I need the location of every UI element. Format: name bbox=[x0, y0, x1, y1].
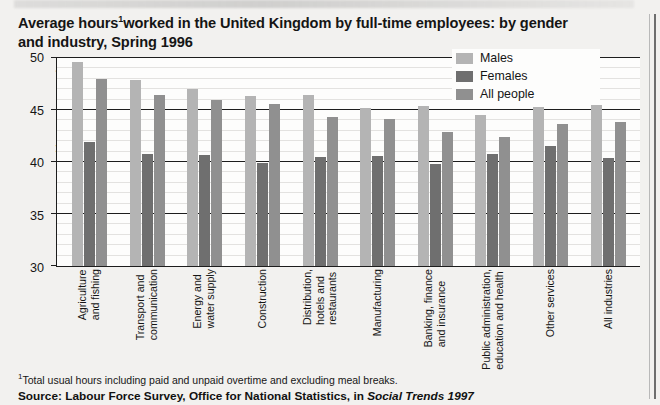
bar-females[interactable] bbox=[603, 158, 614, 266]
x-category-label-line: restaurants bbox=[326, 269, 339, 325]
bar-all-people[interactable] bbox=[269, 104, 280, 266]
y-axis-tick-labels: 3035404550 bbox=[8, 57, 50, 267]
x-category-label: All industries bbox=[602, 269, 615, 329]
bar-males[interactable] bbox=[418, 106, 429, 266]
bar-group bbox=[119, 58, 177, 266]
legend-item[interactable]: Females bbox=[456, 69, 596, 83]
title-line1b: worked in the United Kingdom by full-tim… bbox=[123, 15, 568, 31]
x-category-label: Energy andwater supply bbox=[192, 269, 217, 328]
x-category-label: Manufacturing bbox=[371, 269, 384, 336]
y-tick-label: 30 bbox=[8, 261, 44, 275]
legend-item[interactable]: Males bbox=[456, 51, 596, 65]
legend-swatch bbox=[456, 89, 473, 100]
x-label-cell: Energy andwater supply bbox=[175, 269, 233, 373]
title-line1a: Average hours bbox=[18, 15, 118, 31]
bar-males[interactable] bbox=[72, 62, 83, 266]
x-label-cell: Other services bbox=[522, 269, 580, 373]
bar-males[interactable] bbox=[245, 96, 256, 266]
bar-males[interactable] bbox=[187, 89, 198, 266]
x-category-label-line: Agriculture bbox=[76, 269, 89, 320]
x-label-cell: Transport andcommunication bbox=[118, 269, 176, 373]
x-label-cell: All industries bbox=[579, 269, 637, 373]
footnote: 1Total usual hours including paid and un… bbox=[18, 372, 628, 387]
bar-group bbox=[349, 58, 407, 266]
legend-label: Females bbox=[480, 69, 528, 83]
x-category-label-line: water supply bbox=[204, 269, 217, 328]
y-tick-mark bbox=[51, 213, 57, 214]
bar-males[interactable] bbox=[303, 95, 314, 266]
bar-all-people[interactable] bbox=[557, 124, 568, 266]
y-tick-label: 40 bbox=[8, 156, 44, 170]
bar-females[interactable] bbox=[372, 156, 383, 266]
x-category-label-line: Construction bbox=[256, 269, 269, 328]
x-category-label: Banking, financeand insurance bbox=[422, 269, 447, 347]
x-category-label-line: Other services bbox=[544, 269, 557, 337]
page-title: Average hours1worked in the United Kingd… bbox=[18, 14, 618, 51]
bar-females[interactable] bbox=[142, 154, 153, 266]
y-tick-mark bbox=[51, 161, 57, 162]
bar-males[interactable] bbox=[360, 108, 371, 266]
x-category-label-line: hotels and bbox=[313, 269, 326, 325]
bar-group bbox=[61, 58, 119, 266]
y-tick-mark bbox=[51, 57, 57, 58]
x-category-label: Agricultureand fishing bbox=[76, 269, 101, 320]
bar-group bbox=[291, 58, 349, 266]
bar-females[interactable] bbox=[487, 154, 498, 266]
x-category-label-line: All industries bbox=[602, 269, 615, 329]
legend-swatch bbox=[456, 53, 473, 64]
chart-legend: MalesFemalesAll people bbox=[452, 49, 600, 103]
bar-females[interactable] bbox=[315, 157, 326, 266]
x-axis-category-labels: Agricultureand fishingTransport andcommu… bbox=[56, 269, 640, 373]
y-tick-mark bbox=[51, 265, 57, 266]
x-category-label-line: education and health bbox=[493, 269, 506, 370]
bar-all-people[interactable] bbox=[442, 132, 453, 266]
x-category-label-line: Public administration, bbox=[480, 269, 493, 370]
x-label-cell: Manufacturing bbox=[349, 269, 407, 373]
x-category-label: Other services bbox=[544, 269, 557, 337]
bar-all-people[interactable] bbox=[211, 100, 222, 266]
chart-page: Average hours1worked in the United Kingd… bbox=[0, 0, 660, 405]
bar-females[interactable] bbox=[545, 146, 556, 266]
x-category-label-line: Distribution, bbox=[301, 269, 314, 325]
x-category-label-line: and insurance bbox=[435, 269, 448, 347]
y-tick-label: 50 bbox=[8, 51, 44, 65]
x-category-label: Construction bbox=[256, 269, 269, 328]
bar-all-people[interactable] bbox=[327, 117, 338, 266]
bar-all-people[interactable] bbox=[615, 122, 626, 266]
bar-all-people[interactable] bbox=[384, 119, 395, 266]
bar-males[interactable] bbox=[591, 105, 602, 266]
y-tick-label: 45 bbox=[8, 104, 44, 118]
source-prefix: Source: Labour Force Survey, Office for … bbox=[18, 389, 367, 403]
bar-females[interactable] bbox=[84, 142, 95, 266]
x-category-label: Distribution,hotels andrestaurants bbox=[301, 269, 339, 325]
legend-swatch bbox=[456, 71, 473, 82]
bar-females[interactable] bbox=[199, 155, 210, 266]
x-label-cell: Public administration,education and heal… bbox=[464, 269, 522, 373]
bar-males[interactable] bbox=[475, 115, 486, 266]
bar-group bbox=[176, 58, 234, 266]
bar-all-people[interactable] bbox=[499, 137, 510, 266]
x-label-cell: Banking, financeand insurance bbox=[406, 269, 464, 373]
x-category-label-line: and fishing bbox=[89, 269, 102, 320]
title-line2: and industry, Spring 1996 bbox=[18, 34, 193, 50]
page-right-rule bbox=[654, 14, 656, 399]
x-category-label-line: Transport and bbox=[134, 269, 147, 340]
bar-males[interactable] bbox=[533, 107, 544, 266]
legend-item[interactable]: All people bbox=[456, 87, 596, 101]
bar-males[interactable] bbox=[130, 80, 141, 266]
page-right-rule-thin bbox=[649, 14, 650, 399]
bar-all-people[interactable] bbox=[154, 95, 165, 266]
y-tick-label: 35 bbox=[8, 209, 44, 223]
bar-females[interactable] bbox=[430, 164, 441, 266]
bar-all-people[interactable] bbox=[96, 79, 107, 266]
legend-label: All people bbox=[480, 87, 534, 101]
x-label-cell: Construction bbox=[233, 269, 291, 373]
x-category-label: Public administration,education and heal… bbox=[480, 269, 505, 370]
x-label-cell: Distribution,hotels andrestaurants bbox=[291, 269, 349, 373]
bar-females[interactable] bbox=[257, 163, 268, 266]
x-category-label-line: communication bbox=[147, 269, 160, 340]
x-category-label-line: Banking, finance bbox=[422, 269, 435, 347]
source-line: Source: Labour Force Survey, Office for … bbox=[18, 389, 628, 403]
bar-group bbox=[234, 58, 292, 266]
x-category-label-line: Energy and bbox=[192, 269, 205, 328]
